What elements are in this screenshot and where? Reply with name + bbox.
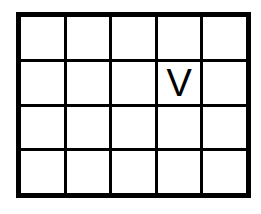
grid-cell-r3-c3 [158, 151, 201, 193]
grid-cell-r1-c4 [203, 62, 246, 104]
grid-cell-r0-c1 [67, 17, 110, 59]
grid-cell-r3-c0 [21, 151, 64, 193]
grid-cell-r2-c4 [203, 107, 246, 149]
grid-cell-r0-c0 [21, 17, 64, 59]
grid-cell-r2-c2 [112, 107, 155, 149]
grid-cell-r1-c0 [21, 62, 64, 104]
grid-cell-r3-c2 [112, 151, 155, 193]
grid-cell-r2-c0 [21, 107, 64, 149]
grid-cell-r2-c3 [158, 107, 201, 149]
grid-cell-r1-c3: V [158, 62, 201, 104]
grid-cell-r0-c4 [203, 17, 246, 59]
grid-board: V [16, 12, 251, 198]
grid-cell-r1-c1 [67, 62, 110, 104]
grid-cell-r1-c2 [112, 62, 155, 104]
grid-cell-r3-c4 [203, 151, 246, 193]
grid-cell-r3-c1 [67, 151, 110, 193]
grid-cell-r0-c2 [112, 17, 155, 59]
grid-cell-r2-c1 [67, 107, 110, 149]
grid-cell-r0-c3 [158, 17, 201, 59]
